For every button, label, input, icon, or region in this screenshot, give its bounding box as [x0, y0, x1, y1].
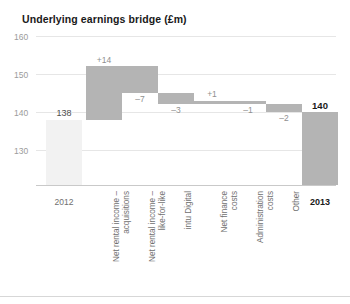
- category-text-net-rental-income-like-for-like: Net rental income – like-for-like: [148, 191, 167, 297]
- category-label-2013[interactable]: 2013: [300, 191, 340, 209]
- bar-value-net-rental-income-like-for-like: –7: [122, 94, 158, 104]
- category-text-2013: 2013: [310, 197, 330, 207]
- bar-administration-costs[interactable]: [230, 101, 266, 105]
- bar-value-intu-digital: –3: [158, 105, 194, 115]
- category-label-2012[interactable]: 2012: [46, 191, 82, 209]
- bar-net-rental-income-acquisitions[interactable]: [86, 66, 122, 119]
- category-text-administration-costs: Administration costs: [256, 191, 275, 297]
- bar-value-other: –2: [266, 113, 302, 123]
- bar-value-2012: 138: [46, 108, 82, 118]
- category-text-2012: 2012: [55, 197, 74, 207]
- x-axis-baseline: [36, 185, 336, 186]
- gridline-160: [36, 36, 336, 37]
- page-title: Underlying earnings bridge (£m): [22, 13, 187, 25]
- bar-intu-digital[interactable]: [158, 93, 194, 104]
- bar-net-finance-costs[interactable]: [194, 101, 230, 105]
- bar-other[interactable]: [266, 104, 302, 112]
- category-text-intu-digital: intu Digital: [184, 191, 194, 297]
- x-axis-categories: 2012 Net rental income – acquisitions Ne…: [36, 189, 336, 301]
- bar-2012[interactable]: [46, 120, 82, 185]
- bar-value-net-finance-costs: +1: [194, 89, 230, 99]
- plot-area: 138 +14 –7 –3 +1 –1 –2 140: [36, 36, 336, 186]
- y-axis-tick-150: 150: [14, 70, 28, 80]
- bar-net-rental-income-like-for-like[interactable]: [122, 66, 158, 93]
- y-axis-tick-140: 140: [14, 108, 28, 118]
- category-text-net-rental-income-acquisitions: Net rental income – acquisitions: [112, 191, 131, 297]
- bar-value-administration-costs: –1: [230, 105, 266, 115]
- category-text-net-finance-costs: Net finance costs: [220, 191, 239, 297]
- y-axis-tick-130: 130: [14, 146, 28, 156]
- y-axis-tick-160: 160: [14, 32, 28, 42]
- bar-value-2013: 140: [300, 100, 340, 111]
- chart-page: Underlying earnings bridge (£m) 160 150 …: [0, 0, 350, 304]
- bar-2013[interactable]: [302, 112, 338, 185]
- bar-value-net-rental-income-acquisitions: +14: [86, 55, 122, 65]
- footer-divider: [0, 296, 350, 297]
- gridline-150: [36, 74, 336, 75]
